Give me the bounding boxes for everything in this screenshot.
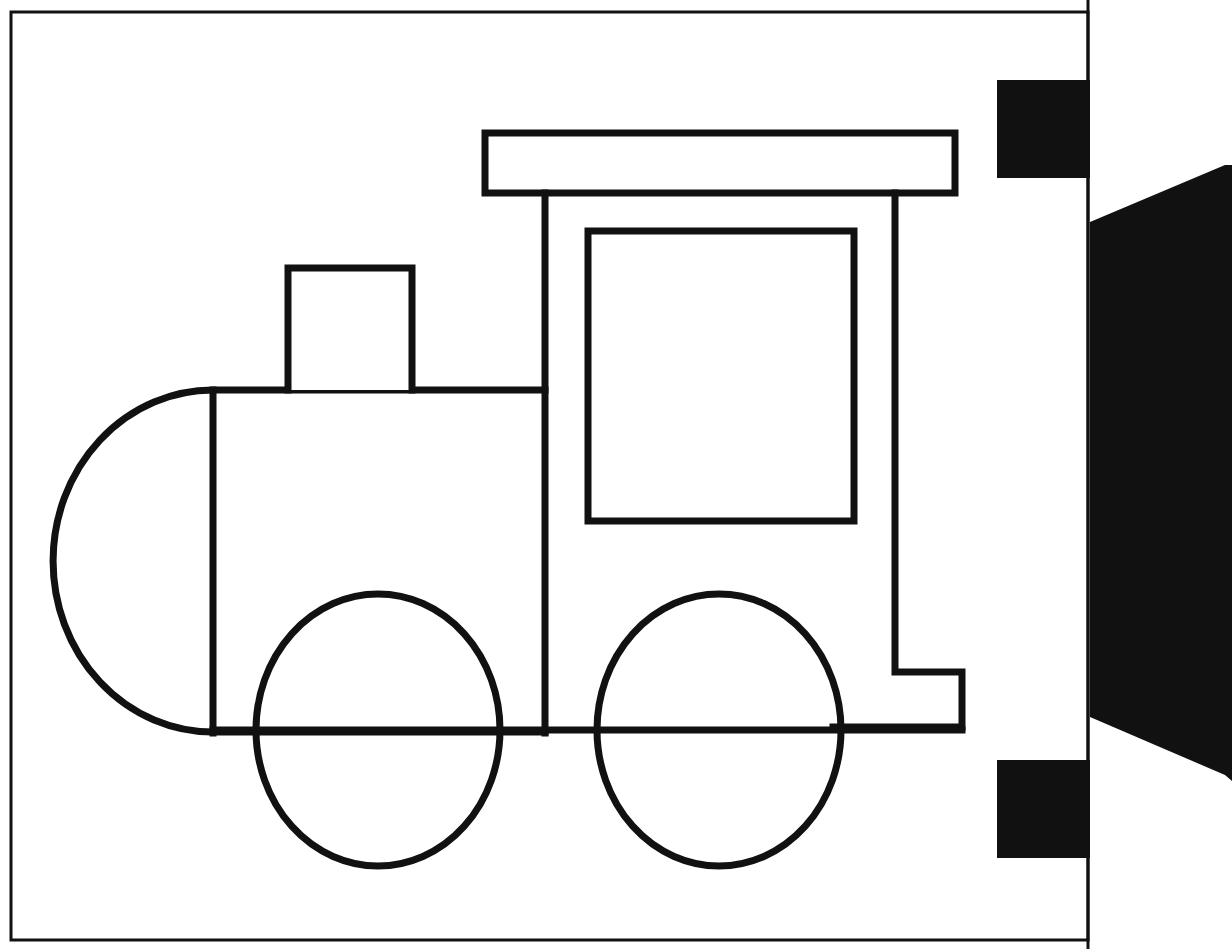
cab-roof <box>485 133 955 193</box>
locomotive-artboard <box>0 0 1232 949</box>
chimney-outline <box>288 268 412 390</box>
coloring-page: Train Locomotive Coloring Page Black out… <box>0 0 1232 949</box>
black-block-bottom <box>997 760 1090 858</box>
black-block-top <box>997 80 1090 178</box>
black-wedge-shape <box>1090 165 1232 781</box>
cab-window <box>588 231 854 521</box>
boiler-outline <box>53 390 545 732</box>
